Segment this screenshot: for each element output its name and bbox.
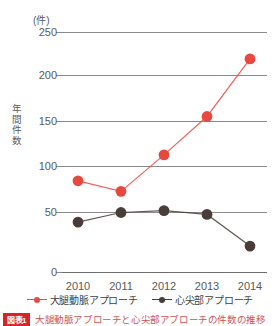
xtick-label-2013: 2013 bbox=[195, 280, 219, 292]
xtick-label-2014: 2014 bbox=[238, 280, 262, 292]
data-point[interactable] bbox=[159, 205, 170, 216]
series-line-0 bbox=[78, 59, 250, 191]
data-point[interactable] bbox=[73, 175, 84, 186]
caption-strip: 図表1 大腿動脈アプローチと心尖部アプローチの件数の推移 bbox=[0, 312, 280, 326]
data-point[interactable] bbox=[116, 186, 127, 197]
ytick-label-200: 200 bbox=[39, 69, 57, 81]
ytick-label-50: 50 bbox=[45, 206, 57, 218]
legend-item-apical[interactable]: 心尖部アプローチ bbox=[152, 292, 253, 307]
legend-marker-icon-femoral bbox=[27, 295, 47, 305]
plot-area: 250 200 150 100 50 0 2010 2011 2012 2013… bbox=[62, 28, 267, 276]
legend-marker-icon-apical bbox=[152, 295, 172, 305]
y-axis-title-char-4: 数 bbox=[10, 136, 24, 147]
data-point[interactable] bbox=[159, 149, 170, 160]
chart-legend: 大腿動脈アプローチ 心尖部アプローチ bbox=[0, 292, 280, 307]
y-axis-unit-label: (件) bbox=[33, 12, 50, 27]
y-axis-title: 年 間 件 数 bbox=[10, 104, 24, 146]
caption-badge: 図表1 bbox=[3, 313, 30, 326]
y-axis-title-char-3: 件 bbox=[10, 125, 24, 136]
y-axis-title-char-1: 年 bbox=[10, 104, 24, 115]
data-point[interactable] bbox=[116, 207, 127, 218]
caption-text: 大腿動脈アプローチと心尖部アプローチの件数の推移 bbox=[35, 312, 265, 326]
xtick-label-2011: 2011 bbox=[109, 280, 133, 292]
chart-figure: (件) 年 間 件 数 250 200 150 100 50 0 bbox=[0, 0, 280, 326]
legend-item-femoral[interactable]: 大腿動脈アプローチ bbox=[27, 292, 138, 307]
ytick-label-250: 250 bbox=[39, 26, 57, 38]
xtick-label-2012: 2012 bbox=[152, 280, 176, 292]
ytick-label-100: 100 bbox=[39, 160, 57, 172]
series-layer bbox=[62, 28, 267, 276]
data-point[interactable] bbox=[202, 209, 213, 220]
data-point[interactable] bbox=[245, 53, 256, 64]
legend-label-femoral: 大腿動脈アプローチ bbox=[50, 292, 138, 307]
ytick-label-150: 150 bbox=[39, 115, 57, 127]
legend-label-apical: 心尖部アプローチ bbox=[175, 292, 253, 307]
data-point[interactable] bbox=[202, 111, 213, 122]
data-point[interactable] bbox=[245, 241, 256, 252]
xtick-label-2010: 2010 bbox=[66, 280, 90, 292]
ytick-label-0: 0 bbox=[51, 266, 57, 278]
data-point[interactable] bbox=[73, 217, 84, 228]
